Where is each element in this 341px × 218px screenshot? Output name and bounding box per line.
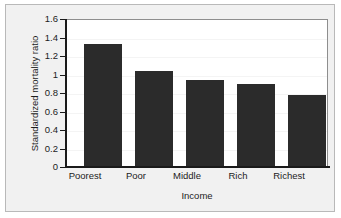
bar-poorest	[84, 44, 122, 167]
x-tick-label-poor: Poor	[114, 170, 158, 181]
x-tick-label-rich: Rich	[216, 170, 260, 181]
y-tick	[60, 112, 66, 113]
x-axis-title: Income	[66, 190, 328, 201]
x-tick-label-middle: Middle	[165, 170, 209, 181]
y-tick	[60, 75, 66, 76]
y-tick	[60, 93, 66, 94]
figure-frame: 1.6 1.4 1.2 1 0.8 0.6 0.4 0.2 0 Standard…	[5, 4, 335, 212]
x-axis-line	[65, 166, 330, 168]
bar-richest	[288, 95, 326, 167]
x-tick-label-richest: Richest	[267, 170, 311, 181]
y-tick	[60, 130, 66, 131]
y-axis-title: Standardized mortality ratio	[29, 19, 40, 169]
y-tick	[60, 149, 66, 150]
y-tick	[60, 56, 66, 57]
y-tick	[60, 19, 66, 20]
gridline	[66, 39, 327, 40]
y-tick	[60, 167, 66, 168]
bar-rich	[237, 84, 275, 167]
bar-poor	[135, 71, 173, 167]
bar-middle	[186, 80, 224, 167]
plot-area	[66, 19, 328, 167]
y-tick	[60, 38, 66, 39]
x-tick-label-poorest: Poorest	[63, 170, 107, 181]
